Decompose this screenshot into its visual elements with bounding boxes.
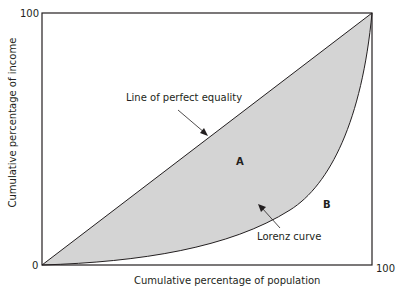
equality-arrowhead bbox=[200, 128, 208, 136]
lorenz-diagram bbox=[0, 0, 403, 294]
x-axis-label: Cumulative percentage of population bbox=[134, 276, 320, 286]
y-max-tick: 100 bbox=[20, 9, 39, 19]
lorenz-label: Lorenz curve bbox=[257, 232, 321, 242]
area-b-label: B bbox=[323, 200, 331, 210]
equality-arrow bbox=[178, 110, 205, 133]
equality-label: Line of perfect equality bbox=[126, 93, 242, 103]
area-a-label: A bbox=[236, 157, 244, 167]
origin-tick: 0 bbox=[32, 261, 38, 271]
y-axis-label: Cumulative percentage of income bbox=[7, 68, 18, 208]
x-max-tick: 100 bbox=[376, 264, 395, 274]
